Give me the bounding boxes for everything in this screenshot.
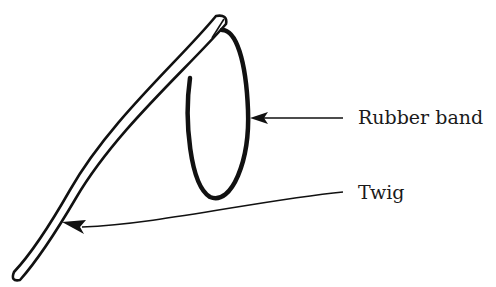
rubber-band-label: Rubber band — [358, 108, 483, 127]
twig — [13, 16, 226, 281]
rubber-band-callout-arrow — [250, 112, 343, 124]
twig-callout-arrow — [62, 192, 343, 234]
twig-label: Twig — [358, 183, 405, 202]
diagram-canvas — [0, 0, 496, 287]
